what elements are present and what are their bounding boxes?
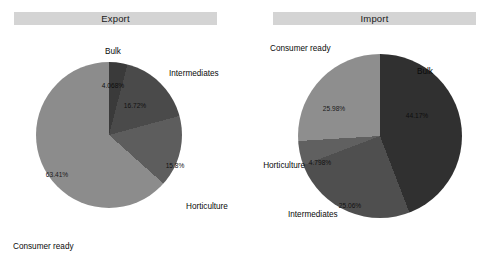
import-value-bulk: 44.17% (406, 113, 428, 120)
import-panel: Import 44.17% 25.06% 4.798% 25.98% Bulk … (245, 0, 490, 266)
export-value-intermediates: 16.72% (124, 103, 146, 110)
export-banner-label: Export (101, 14, 130, 24)
export-banner: Export (14, 12, 217, 25)
import-value-consumer-ready: 25.98% (323, 106, 345, 113)
import-label-consumer-ready: Consumer ready (270, 45, 331, 53)
import-pie (298, 54, 462, 218)
import-pie-wrap (298, 54, 462, 218)
import-value-horticulture: 4.798% (309, 160, 331, 167)
export-label-consumer-ready: Consumer ready (13, 243, 74, 251)
import-banner: Import (273, 12, 476, 25)
pie-chart-figure: Export 4.068% 16.72% 15.8% 63.41% Bulk I… (0, 0, 490, 266)
export-label-horticulture: Horticulture (186, 203, 228, 211)
export-value-bulk: 4.068% (102, 83, 124, 90)
export-label-intermediates: Intermediates (169, 70, 219, 78)
export-panel: Export 4.068% 16.72% 15.8% 63.41% Bulk I… (0, 0, 245, 266)
export-label-bulk: Bulk (105, 48, 121, 56)
export-value-horticulture: 15.8% (166, 163, 185, 170)
import-value-intermediates: 25.06% (339, 203, 361, 210)
import-label-intermediates: Intermediates (288, 211, 338, 219)
import-label-horticulture: Horticulture (263, 162, 305, 170)
export-value-consumer-ready: 63.41% (46, 172, 68, 179)
import-label-bulk: Bulk (417, 68, 433, 76)
import-banner-label: Import (360, 14, 388, 24)
